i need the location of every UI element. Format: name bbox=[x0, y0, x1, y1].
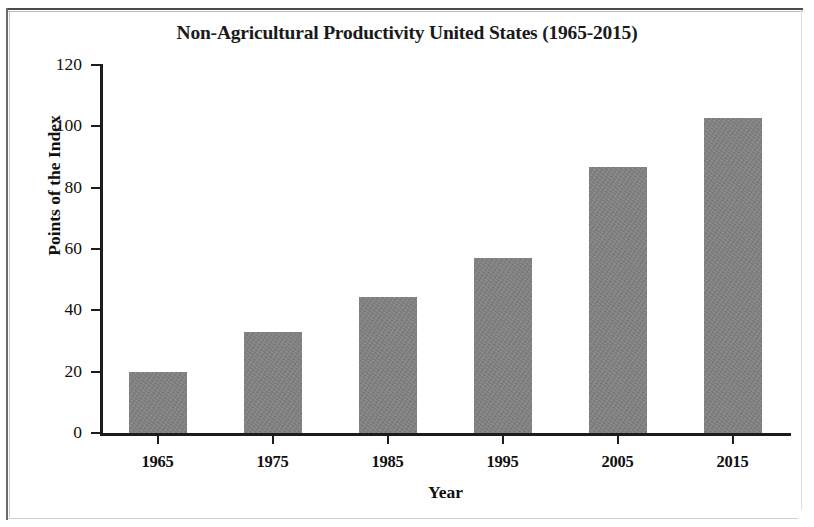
y-axis-title: Points of the Index bbox=[44, 66, 65, 306]
y-axis-tick-mark bbox=[91, 432, 100, 434]
x-axis-tick-label: 1985 bbox=[333, 452, 443, 472]
page-frame-bottom-border bbox=[8, 518, 798, 519]
plot-area bbox=[100, 65, 790, 433]
x-axis-tick-mark bbox=[387, 435, 389, 444]
bar bbox=[589, 167, 647, 433]
x-axis-title: Year bbox=[100, 482, 791, 503]
y-axis-tick-label: 20 bbox=[36, 363, 82, 381]
x-axis-tick-mark bbox=[157, 435, 159, 444]
x-axis-tick-mark bbox=[272, 435, 274, 444]
x-axis-tick-label: 1995 bbox=[448, 452, 558, 472]
chart-page: Non-Agricultural Productivity United Sta… bbox=[0, 0, 814, 527]
y-axis-tick-label: 0 bbox=[36, 424, 82, 442]
y-axis-tick-mark bbox=[91, 125, 100, 127]
y-axis-tick-mark bbox=[91, 248, 100, 250]
page-frame-right-border bbox=[801, 10, 802, 510]
bar bbox=[244, 332, 302, 433]
x-axis-tick-mark bbox=[732, 435, 734, 444]
x-axis-tick-label: 2015 bbox=[678, 452, 788, 472]
y-axis-tick-mark bbox=[91, 309, 100, 311]
page-frame-left-border bbox=[6, 8, 8, 520]
chart-title: Non-Agricultural Productivity United Sta… bbox=[0, 22, 814, 44]
bar bbox=[474, 258, 532, 433]
x-axis-tick-mark bbox=[617, 435, 619, 444]
y-axis-tick-mark bbox=[91, 371, 100, 373]
y-axis-tick-mark bbox=[91, 64, 100, 66]
x-axis-tick-label: 1975 bbox=[218, 452, 328, 472]
x-axis-tick-label: 1965 bbox=[103, 452, 213, 472]
bar bbox=[129, 372, 187, 433]
page-frame-left-border-inner bbox=[9, 12, 10, 517]
bar bbox=[704, 118, 762, 433]
page-frame-top-border bbox=[6, 8, 803, 10]
x-axis-tick-mark bbox=[502, 435, 504, 444]
x-axis-line bbox=[100, 433, 791, 436]
x-axis-tick-label: 2005 bbox=[563, 452, 673, 472]
y-axis-tick-mark bbox=[91, 187, 100, 189]
page-frame-top-border-inner bbox=[6, 11, 803, 12]
bar bbox=[359, 297, 417, 433]
